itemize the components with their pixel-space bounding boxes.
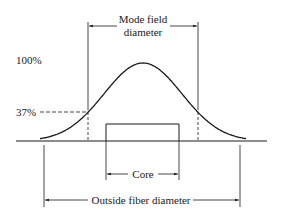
peak-level-label: 100% bbox=[16, 54, 42, 66]
mode-field-diagram: Mode field diameter 100% 37% Core Outsid… bbox=[0, 0, 281, 223]
core-profile bbox=[106, 124, 179, 141]
threshold-level-label: 37% bbox=[16, 106, 36, 118]
outside-fiber-label: Outside fiber diameter bbox=[92, 194, 191, 206]
mode-field-label-line2: diameter bbox=[124, 26, 163, 38]
mode-field-curve bbox=[40, 63, 246, 139]
core-label: Core bbox=[132, 168, 154, 180]
mode-field-label-line1: Mode field bbox=[119, 13, 168, 25]
